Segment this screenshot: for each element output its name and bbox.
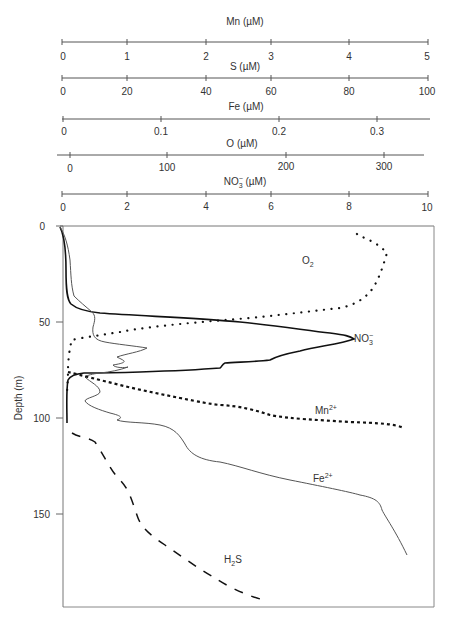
s-tick: 60 xyxy=(265,86,277,97)
mn-axis: Mn (µM) 0 1 2 3 4 5 xyxy=(60,16,430,62)
mn2-annotation: Mn2+ xyxy=(315,404,337,416)
s-tick: 20 xyxy=(121,86,133,97)
depth-axis: 0 50 100 150 Depth (m) xyxy=(13,221,63,520)
s-tick: 40 xyxy=(200,86,212,97)
no3-tick: 0 xyxy=(60,202,66,213)
mn-tick: 5 xyxy=(424,51,430,62)
no3-tick: 8 xyxy=(346,201,352,212)
depth-tick: 50 xyxy=(39,317,51,328)
depth-axis-label: Depth (m) xyxy=(13,376,24,420)
mn-axis-label: Mn (µM) xyxy=(226,16,263,27)
o-axis: O (µM) 0 100 200 300 xyxy=(57,138,424,174)
no3-annotation: NO3− xyxy=(354,332,373,346)
no3-series xyxy=(60,227,354,423)
o-tick: 200 xyxy=(278,161,295,172)
h2s-series xyxy=(72,433,268,601)
no3-axis: NO3− (µM) 0 2 4 6 8 10 xyxy=(60,175,433,213)
s-tick: 100 xyxy=(419,86,436,97)
depth-tick: 0 xyxy=(39,221,45,232)
fe2-annotation: Fe2+ xyxy=(313,472,333,484)
mn-tick: 4 xyxy=(346,51,352,62)
s-axis: S (µM) 0 20 40 60 80 100 xyxy=(60,61,436,97)
mn-tick: 2 xyxy=(203,51,209,62)
mn-tick: 3 xyxy=(268,51,274,62)
mn-tick: 0 xyxy=(60,51,66,62)
plot-frame xyxy=(60,226,434,607)
o-tick: 0 xyxy=(67,163,73,174)
fe-axis: Fe (µM) 0 0.1 0.2 0.3 xyxy=(61,101,430,137)
s-tick: 0 xyxy=(60,86,66,97)
o-tick: 300 xyxy=(376,161,393,172)
fe-tick: 0.2 xyxy=(272,126,286,137)
no3-tick: 6 xyxy=(268,201,274,212)
depth-profile-chart: Mn (µM) 0 1 2 3 4 5 S (µM) 0 20 40 60 80… xyxy=(0,0,453,620)
o2-annotation: O2 xyxy=(302,255,314,268)
h2s-annotation: H2S xyxy=(224,554,242,567)
fe-axis-label: Fe (µM) xyxy=(228,101,263,112)
fe-tick: 0.1 xyxy=(154,126,168,137)
no3-tick: 4 xyxy=(203,201,209,212)
depth-tick: 100 xyxy=(33,413,50,424)
s-tick: 80 xyxy=(343,86,355,97)
o-axis-label: O (µM) xyxy=(226,138,257,149)
fe-tick: 0 xyxy=(61,126,67,137)
no3-tick: 2 xyxy=(124,201,130,212)
s-axis-label: S (µM) xyxy=(230,61,260,72)
no3-axis-label: NO3− (µM) xyxy=(224,175,267,189)
fe-tick: 0.3 xyxy=(370,126,384,137)
o-tick: 100 xyxy=(159,162,176,173)
no3-tick: 10 xyxy=(421,202,433,213)
mn-tick: 1 xyxy=(124,51,130,62)
depth-tick: 150 xyxy=(33,509,50,520)
fe2-series xyxy=(60,227,407,555)
